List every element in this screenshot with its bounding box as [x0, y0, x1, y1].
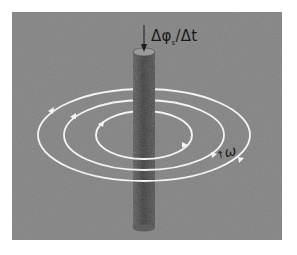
flux-symbol: Δφ — [151, 27, 172, 45]
flux-time-denominator: /Δt — [175, 27, 197, 45]
conductor-rod — [133, 48, 155, 232]
diagram-canvas — [0, 0, 297, 255]
flux-rate-label: Δφs/Δt — [151, 27, 197, 47]
